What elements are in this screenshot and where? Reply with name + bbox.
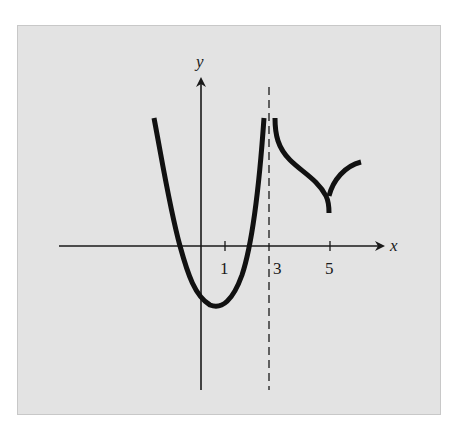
curve-branch-right	[275, 118, 329, 213]
x-axis-label: x	[389, 236, 398, 255]
y-axis-label: y	[194, 52, 204, 71]
function-graph: y x 1 3 5	[0, 0, 457, 435]
curve-branch-left	[154, 118, 264, 306]
x-tick-label-3: 3	[273, 259, 282, 278]
x-tick-label-5: 5	[325, 259, 334, 278]
curve-branch-right-rise	[329, 162, 361, 196]
x-tick-label-1: 1	[220, 259, 229, 278]
